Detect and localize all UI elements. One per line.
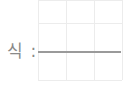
grid-line-horizontal [38, 23, 122, 24]
grid-line-vertical [38, 0, 39, 80]
grid-line-vertical [94, 0, 95, 80]
grid-line-vertical [122, 0, 123, 80]
expression-label: 식 : [7, 41, 37, 61]
grid-line-horizontal [38, 80, 122, 81]
answer-grid [38, 0, 122, 80]
grid-line-horizontal [38, 0, 122, 1]
answer-input-line[interactable] [38, 51, 121, 53]
grid-line-vertical [66, 0, 67, 80]
